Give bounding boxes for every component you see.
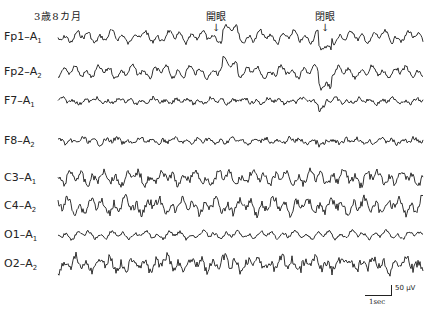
eeg-traces: [0, 0, 437, 312]
trace-o2: [58, 252, 423, 276]
trace-f7: [58, 96, 423, 112]
amplitude-scale-label: 50 μV: [395, 284, 415, 292]
trace-c4: [58, 194, 423, 218]
trace-fp2: [58, 56, 423, 90]
trace-c3: [58, 168, 423, 188]
time-scale-label: 1sec: [369, 298, 385, 306]
time-scale-bar: [365, 295, 392, 296]
trace-o1: [58, 229, 423, 240]
amplitude-scale-bar: [391, 285, 392, 295]
trace-f8: [58, 136, 423, 147]
trace-fp1: [58, 24, 423, 50]
